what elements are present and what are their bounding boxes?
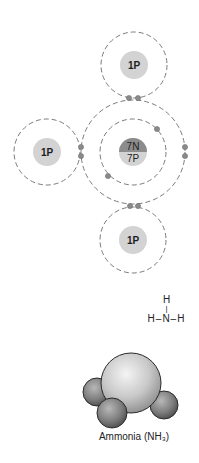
molecule-caption: Ammonia (NH₃) — [0, 431, 199, 442]
electron-dot — [78, 153, 83, 158]
hydrogen-atom-bottom: 1P — [100, 207, 166, 273]
electron-dot — [126, 95, 131, 100]
formula-bond: | — [67, 305, 199, 313]
nucleus-label: 1P — [128, 60, 141, 71]
hydrogen-atom-left: 1P — [14, 119, 80, 185]
hydrogen-sphere-front — [97, 398, 127, 428]
electron-dot — [154, 126, 159, 131]
hydrogen-atom-top: 1P — [101, 32, 167, 98]
electron-dot — [78, 144, 83, 149]
structural-formula: H | H–N–H — [67, 295, 199, 325]
proton-label: 7P — [127, 153, 140, 164]
formula-top-h: H — [67, 295, 199, 305]
nitrogen-atom: 7N 7P — [81, 100, 185, 204]
neutron-label: 7N — [127, 141, 140, 152]
bohr-diagram: 1P 1P 1P 7N 7P — [0, 0, 199, 463]
nucleus-label: 1P — [41, 147, 54, 158]
nucleus-label: 1P — [127, 235, 140, 246]
electron-dot — [127, 203, 132, 208]
ammonia-space-filling-model — [83, 353, 178, 428]
electron-dot — [182, 153, 187, 158]
electron-dot — [135, 95, 140, 100]
formula-row: H–N–H — [67, 313, 199, 325]
electron-dot — [182, 144, 187, 149]
electron-dot — [135, 203, 140, 208]
electron-dot — [105, 173, 110, 178]
